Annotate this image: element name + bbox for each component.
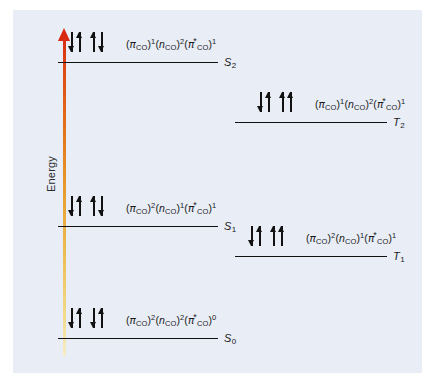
- spin-arrows-t2: [257, 92, 294, 112]
- energy-arrow-shaft: [63, 38, 66, 356]
- spin-arrow-down: [68, 32, 75, 52]
- level-term-t2: T2: [393, 116, 405, 130]
- spin-arrows-s1: [68, 196, 105, 216]
- spin-arrow-down: [90, 308, 97, 328]
- level-line-t1: [235, 256, 387, 257]
- level-line-s0: [58, 338, 218, 339]
- spin-arrow-up: [279, 92, 286, 112]
- spin-pair-n-s2: [90, 32, 105, 52]
- spin-arrow-up: [287, 92, 294, 112]
- spin-arrow-up: [265, 92, 272, 112]
- level-term-s2: S2: [224, 56, 236, 70]
- spin-pair-pi-s2: [68, 32, 83, 52]
- configuration-label-s0: (πCO)2(nCO)2(π*CO)0: [126, 312, 216, 328]
- spin-pair-pi-t1: [248, 226, 263, 246]
- level-line-s1: [58, 226, 218, 227]
- level-term-s1: S1: [224, 220, 236, 234]
- level-line-s2: [58, 62, 218, 63]
- level-term-s0: S0: [224, 332, 236, 346]
- spin-arrow-up: [278, 226, 285, 246]
- spin-arrow-up: [90, 196, 97, 216]
- spin-arrows-s0: [68, 308, 105, 328]
- spin-arrow-down: [68, 308, 75, 328]
- configuration-label-s1: (πCO)2(nCO)1(π*CO)1: [126, 200, 216, 216]
- level-term-t1: T1: [393, 250, 405, 264]
- spin-arrow-up: [98, 308, 105, 328]
- spin-arrow-up: [256, 226, 263, 246]
- configuration-label-t1: (πCO)2(nCO)1(π*CO)1: [306, 230, 396, 246]
- spin-arrow-up: [76, 196, 83, 216]
- spin-pair-n-t1: [270, 226, 285, 246]
- energy-level-diagram-panel: Energy (πCO)1(nCO)2(π*CO)1 S2: [13, 10, 422, 373]
- spin-pair-pi-s0: [68, 308, 83, 328]
- spin-arrow-down: [98, 32, 105, 52]
- spin-arrow-down: [98, 196, 105, 216]
- spin-pair-pi-t2: [257, 92, 272, 112]
- configuration-label-t2: (πCO)1(nCO)2(π*CO)1: [315, 96, 405, 112]
- spin-arrow-up: [76, 32, 83, 52]
- spin-arrows-s2: [68, 32, 105, 52]
- energy-axis-label: Energy: [45, 144, 57, 204]
- spin-arrow-down: [257, 92, 264, 112]
- spin-pair-pi-s1: [68, 196, 83, 216]
- spin-arrow-up: [90, 32, 97, 52]
- spin-pair-n-s1: [90, 196, 105, 216]
- spin-arrow-up: [76, 308, 83, 328]
- spin-arrow-down: [68, 196, 75, 216]
- configuration-label-s2: (πCO)1(nCO)2(π*CO)1: [126, 36, 216, 52]
- spin-arrow-up: [270, 226, 277, 246]
- spin-arrows-t1: [248, 226, 285, 246]
- spin-arrow-down: [248, 226, 255, 246]
- level-line-t2: [235, 122, 387, 123]
- spin-pair-n-t2: [279, 92, 294, 112]
- spin-pair-n-s0: [90, 308, 105, 328]
